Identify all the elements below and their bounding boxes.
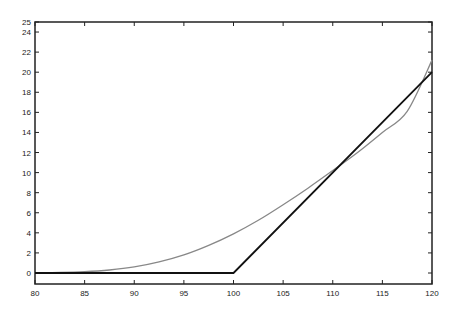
y-tick-label: 16 (22, 108, 31, 117)
y-tick-label: 4 (27, 229, 32, 238)
y-tick-label: 12 (22, 149, 31, 158)
y-tick-label: 25 (22, 18, 31, 27)
y-tick-label: 2 (27, 249, 32, 258)
x-tick-label: 105 (276, 289, 290, 298)
x-tick-label: 95 (179, 289, 188, 298)
plot-frame (35, 22, 432, 284)
x-tick-label: 80 (31, 289, 40, 298)
x-tick-label: 90 (130, 289, 139, 298)
x-tick-label: 120 (425, 289, 439, 298)
x-tick-label: 110 (326, 289, 339, 298)
series (35, 60, 432, 273)
series-line-payoff (35, 72, 432, 273)
y-tick-label: 20 (22, 68, 31, 77)
y-tick-label: 14 (22, 128, 31, 137)
y-tick-label: 24 (22, 28, 31, 37)
chart: 8085909510010511011512002468101214161820… (0, 0, 461, 316)
axes: 8085909510010511011512002468101214161820… (22, 18, 439, 298)
y-tick-label: 0 (27, 269, 32, 278)
x-tick-label: 85 (80, 289, 89, 298)
y-tick-label: 10 (22, 169, 31, 178)
y-tick-label: 6 (27, 209, 32, 218)
y-tick-label: 18 (22, 88, 31, 97)
y-tick-label: 22 (22, 48, 31, 57)
x-tick-label: 100 (227, 289, 241, 298)
series-line-option-value (35, 60, 432, 273)
x-tick-label: 115 (376, 289, 389, 298)
y-tick-label: 8 (27, 189, 32, 198)
